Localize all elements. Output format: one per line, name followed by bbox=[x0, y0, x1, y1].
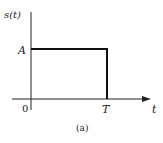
figure-caption: (a) bbox=[76, 123, 88, 133]
pulse-signal bbox=[31, 49, 107, 99]
end-label: T bbox=[102, 103, 111, 116]
y-axis-label: s(t) bbox=[4, 9, 21, 20]
amplitude-label: A bbox=[17, 44, 26, 57]
x-axis-label: t bbox=[152, 103, 157, 116]
origin-label: 0 bbox=[22, 103, 28, 114]
pulse-diagram: s(t) A 0 T t (a) bbox=[0, 0, 163, 143]
x-axis-arrow-icon bbox=[142, 96, 151, 102]
